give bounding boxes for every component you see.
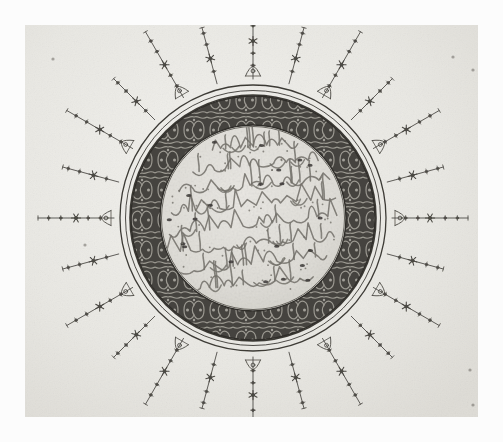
- corner-dot-top-right: [451, 55, 454, 58]
- edge-mark-right-lower: [468, 368, 471, 371]
- field-stroke-left: [83, 243, 86, 246]
- edge-mark-right-upper: [471, 68, 474, 71]
- roundel-illustration: [25, 25, 478, 417]
- edge-mark-right-bottom: [471, 403, 474, 406]
- corner-dot-top-left: [51, 57, 54, 60]
- manuscript-paper: [25, 25, 478, 417]
- photograph-plate: [0, 0, 503, 442]
